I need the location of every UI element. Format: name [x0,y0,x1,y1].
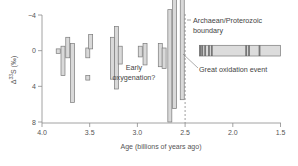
proterozoic-band [199,45,280,56]
y-tick-label: 4 [32,83,36,90]
range-bar [162,48,166,69]
range-bar [86,48,90,58]
range-bar [86,76,90,80]
band-stripe [248,45,250,56]
annotation-early-oxygenation: Early oxygenation? [113,63,156,82]
y-axis-title: Δ33S (‰) [8,56,18,85]
annotation-great-oxidation: Great oxidation event [183,54,267,74]
y-tick-label: −4 [28,12,36,19]
range-bar [71,44,75,103]
svg-text:Δ33S (‰): Δ33S (‰) [8,56,18,85]
svg-text:Archaean/Proterozoic: Archaean/Proterozoic [193,16,263,25]
range-bar [118,46,122,64]
y-tick-label: 0 [32,47,36,54]
range-bar [168,10,172,122]
svg-text:boundary: boundary [193,26,223,35]
x-axis-title: Age (billions of years ago) [121,143,202,151]
band-stripe [199,45,201,56]
range-bar [173,0,177,109]
y-axis: −4048 [28,12,42,126]
range-bar [61,46,65,75]
svg-text:Early: Early [126,63,143,72]
range-bar [66,37,70,58]
annotation-boundary: Archaean/Proterozoic boundary [187,16,263,36]
x-tick-label: 2.5 [180,129,190,136]
svg-text:oxygenation?: oxygenation? [113,73,156,82]
band-stripe [204,45,206,56]
band-stripe [201,45,203,56]
x-tick-label: 3.0 [133,129,143,136]
range-bar [138,46,142,57]
x-axis: 4.03.53.02.52.01.5 [37,123,285,136]
range-bars [56,0,184,122]
range-bar [143,44,147,65]
band-stripe [259,45,261,56]
y-tick-label: 8 [32,119,36,126]
range-bar [180,0,184,100]
x-tick-label: 2.0 [228,129,238,136]
svg-text:Great oxidation event: Great oxidation event [199,65,267,74]
range-bar [56,49,60,53]
band-stripe [211,45,213,56]
x-tick-label: 3.5 [85,129,95,136]
x-tick-label: 1.5 [276,129,286,136]
band-stripe [208,45,210,56]
range-bar [158,44,162,67]
x-tick-label: 4.0 [37,129,47,136]
range-bar [89,35,93,49]
sulfur-isotope-chart: −4048 4.03.53.02.52.01.5 Age (billions o… [0,0,298,166]
band-stripe [245,45,247,56]
